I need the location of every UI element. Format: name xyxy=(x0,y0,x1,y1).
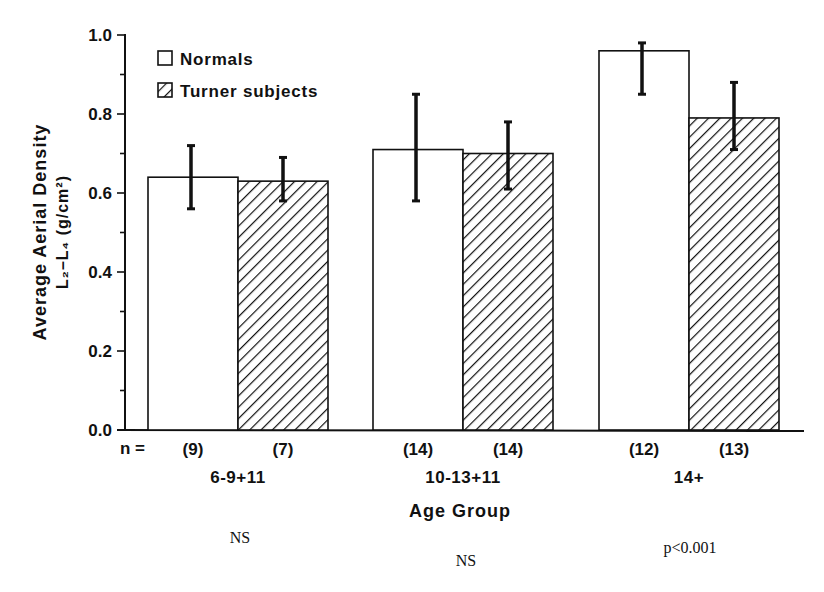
legend: Normals Turner subjects xyxy=(158,50,318,101)
legend-swatch-normals xyxy=(158,51,172,65)
legend-item-normals: Normals xyxy=(158,50,254,69)
category-label: 6-9+11 xyxy=(210,468,265,487)
y-tick-label: 0.6 xyxy=(88,184,112,203)
n-label: (14) xyxy=(403,440,433,459)
y-axis-subtitle: L₂–L₄ (g/cm²) xyxy=(54,175,71,289)
y-tick-label: 1.0 xyxy=(88,26,112,45)
category-label: 14+ xyxy=(674,468,704,487)
category-labels: 6-9+1110-13+1114+ xyxy=(210,468,704,487)
bar-normals xyxy=(373,150,463,430)
n-label: (13) xyxy=(719,440,749,459)
y-tick-label: 0.8 xyxy=(88,105,112,124)
bar-chart: 0.00.20.40.60.81.0 Average Aerial Densit… xyxy=(0,0,824,592)
bar-normals xyxy=(148,177,238,430)
significance-label: NS xyxy=(456,552,476,569)
svg-text:Normals: Normals xyxy=(180,50,254,69)
bar-turner xyxy=(238,181,328,430)
n-label: (14) xyxy=(493,440,523,459)
n-label: (9) xyxy=(183,440,204,459)
significance-labels: NSNSp<0.001 xyxy=(230,529,717,569)
n-prefix: n = xyxy=(120,439,145,458)
bar-turner xyxy=(463,154,553,431)
y-axis-title: Average Aerial Density xyxy=(30,124,50,341)
y-tick-label: 0.4 xyxy=(88,263,112,282)
y-axis: 0.00.20.40.60.81.0 xyxy=(88,26,125,440)
svg-text:Average Aerial Density: Average Aerial Density xyxy=(30,124,50,341)
y-tick-label: 0.2 xyxy=(88,342,112,361)
legend-item-turner: Turner subjects xyxy=(158,82,318,101)
bar-turner xyxy=(689,118,779,430)
x-axis-title: Age Group xyxy=(409,501,511,521)
svg-text:Turner subjects: Turner subjects xyxy=(180,82,318,101)
significance-label: p<0.001 xyxy=(663,539,716,557)
y-tick-label: 0.0 xyxy=(88,421,112,440)
bar-normals xyxy=(599,51,689,430)
n-labels: (9)(7)(14)(14)(12)(13) xyxy=(183,440,750,459)
n-label: (12) xyxy=(629,440,659,459)
category-label: 10-13+11 xyxy=(425,468,500,487)
legend-swatch-turner xyxy=(158,83,172,97)
significance-label: NS xyxy=(230,529,250,546)
svg-text:L₂–L₄ (g/cm²): L₂–L₄ (g/cm²) xyxy=(54,175,71,289)
n-label: (7) xyxy=(273,440,294,459)
